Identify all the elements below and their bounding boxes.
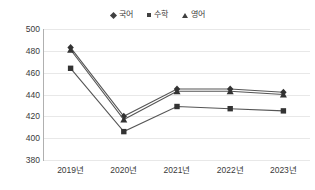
data-point-marker — [121, 129, 126, 134]
data-point-marker — [228, 106, 233, 111]
y-axis-tick-label: 420 — [2, 112, 40, 121]
series-수학 — [68, 66, 286, 135]
y-axis-tick-label: 500 — [2, 25, 40, 34]
y-axis-tick-labels: 500480460440420400380 — [0, 29, 40, 160]
legend-label-math: 수학 — [154, 11, 168, 19]
data-point-marker — [174, 104, 179, 109]
y-axis-tick-label: 480 — [2, 47, 40, 56]
legend-item-math[interactable]: 수학 — [147, 11, 168, 19]
legend-item-korean[interactable]: 국어 — [111, 11, 133, 19]
legend-label-english: 영어 — [191, 11, 205, 19]
y-axis-tick-label: 440 — [2, 90, 40, 99]
y-axis-tick-label: 400 — [2, 134, 40, 143]
x-axis-tick-label: 2019년 — [57, 166, 84, 175]
data-point-marker — [281, 108, 286, 113]
x-axis-tick-labels: 2019년2020년2021년2022년2023년 — [44, 166, 310, 186]
triangle-marker-icon — [182, 13, 188, 18]
plot-area — [44, 29, 310, 160]
series-line — [71, 68, 284, 131]
x-axis-tick-label: 2021년 — [164, 166, 191, 175]
y-axis-tick-label: 380 — [2, 156, 40, 165]
series-layer — [44, 29, 310, 160]
x-axis-tick-label: 2020년 — [110, 166, 137, 175]
legend-label-korean: 국어 — [119, 11, 133, 19]
series-영어 — [67, 46, 287, 122]
square-marker-icon — [147, 13, 151, 17]
x-axis-tick-label: 2023년 — [270, 166, 297, 175]
chart-legend: 국어 수학 영어 — [0, 7, 315, 23]
x-axis-tick-label: 2022년 — [217, 166, 244, 175]
y-axis-tick-label: 460 — [2, 68, 40, 77]
gridline — [44, 160, 310, 161]
line-chart: 국어 수학 영어 500480460440420400380 2019년2020… — [0, 0, 315, 190]
diamond-marker-icon — [109, 11, 116, 18]
legend-item-english[interactable]: 영어 — [182, 11, 205, 19]
data-point-marker — [68, 66, 73, 71]
